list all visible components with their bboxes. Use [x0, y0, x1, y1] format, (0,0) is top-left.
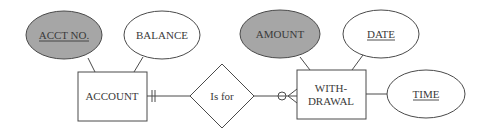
entity-withdrawal[interactable]: WITH- DRAWAL — [297, 70, 366, 119]
attribute-balance-label: BALANCE — [136, 29, 188, 41]
attribute-balance[interactable]: BALANCE — [124, 11, 200, 59]
attribute-acct-no-label: ACCT NO. — [39, 29, 90, 41]
attribute-amount-label: AMOUNT — [256, 28, 305, 40]
entity-withdrawal-label-line2: DRAWAL — [308, 95, 354, 107]
attribute-acct-no[interactable]: ACCT NO. — [26, 11, 102, 59]
er-diagram: ACCT NO. BALANCE ACCOUNT Is for AMOUNT D… — [0, 0, 485, 137]
entity-account[interactable]: ACCOUNT — [78, 72, 147, 121]
relationship-is-for[interactable]: Is for — [190, 64, 254, 128]
entity-account-label: ACCOUNT — [85, 90, 138, 102]
attribute-date[interactable]: DATE — [343, 10, 419, 58]
connector-date-withdrawal — [352, 55, 363, 70]
attribute-time-label: TIME — [413, 88, 440, 100]
connector-acct-no-account — [88, 58, 95, 72]
relationship-is-for-label: Is for — [210, 90, 234, 102]
attribute-date-label: DATE — [367, 28, 395, 40]
connector-balance-account — [134, 57, 143, 72]
entity-withdrawal-label-line1: WITH- — [315, 82, 348, 94]
connector-amount-withdrawal — [300, 57, 310, 70]
attribute-amount[interactable]: AMOUNT — [240, 10, 320, 58]
attribute-time[interactable]: TIME — [387, 70, 465, 118]
